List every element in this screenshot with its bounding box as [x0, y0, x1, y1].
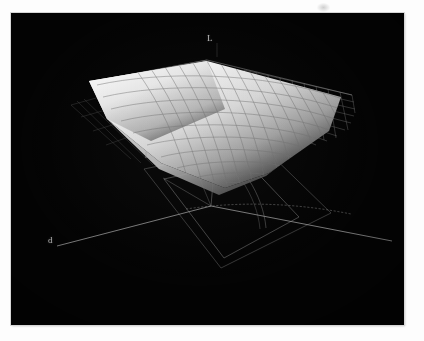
paper-smudge-mark [317, 3, 330, 12]
plot-panel: L d [11, 13, 404, 325]
axis-label-d: d [48, 236, 53, 245]
surface-plot-canvas [11, 13, 404, 325]
figure-page: L d [0, 0, 424, 341]
axis-label-L: L [207, 34, 213, 43]
